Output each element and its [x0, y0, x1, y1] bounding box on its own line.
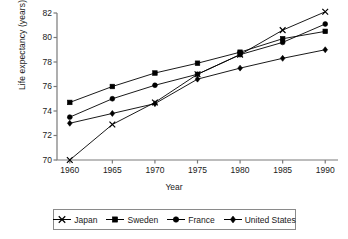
- diamond-marker-icon: [224, 214, 242, 225]
- plot-area: [0, 0, 348, 239]
- legend-label: United States: [245, 215, 296, 225]
- series-france: [67, 22, 327, 120]
- series-japan: [67, 9, 328, 163]
- legend-item-japan[interactable]: Japan: [53, 214, 97, 225]
- circle-marker-icon: [167, 214, 185, 225]
- legend-label: Japan: [74, 215, 97, 225]
- legend-label: France: [188, 215, 214, 225]
- square-marker-icon: [106, 214, 124, 225]
- x-marker-icon: [53, 214, 71, 225]
- legend-label: Sweden: [127, 215, 158, 225]
- series-united-states: [67, 47, 327, 126]
- legend-item-united-states[interactable]: United States: [224, 214, 296, 225]
- chart-legend: JapanSwedenFranceUnited States: [53, 209, 296, 230]
- series-sweden: [67, 29, 327, 105]
- axis-lines: [57, 13, 338, 160]
- legend-item-sweden[interactable]: Sweden: [106, 214, 158, 225]
- life-expectancy-line-chart: Life expectancy (years) Year 70727476788…: [0, 0, 348, 239]
- legend-item-france[interactable]: France: [167, 214, 214, 225]
